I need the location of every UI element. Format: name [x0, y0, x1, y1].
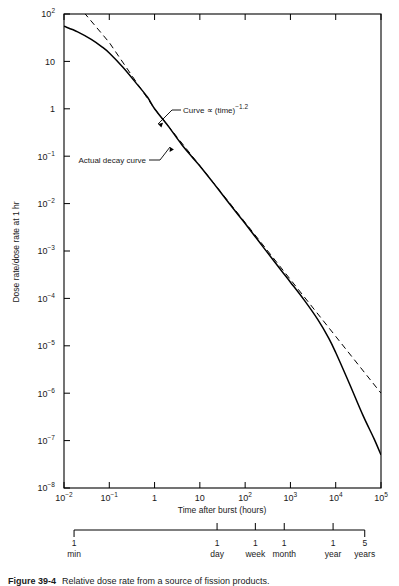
secondary-tick-number: 1: [331, 538, 336, 548]
x-axis-title: Time after burst (hours): [178, 505, 267, 515]
secondary-tick-unit: month: [272, 549, 296, 559]
y-tick-label: 10: [45, 57, 55, 67]
figure-radioactive-decay: 10210110−110−210−310−410−510−610−710−8 1…: [0, 0, 399, 586]
x-tick-label: 10: [195, 493, 205, 503]
secondary-tick-unit: year: [325, 549, 342, 559]
annotation-actual-decay: Actual decay curve: [78, 156, 146, 165]
y-tick-label: 1: [50, 104, 55, 114]
y-axis-title: Dose rate/dose rate at 1 hr: [11, 201, 21, 302]
secondary-tick-unit: week: [244, 549, 266, 559]
x-tick-label: 1: [152, 493, 157, 503]
caption-line: Figure 39-4Relative dose rate from a sou…: [8, 576, 270, 586]
caption-text: Relative dose rate from a source of fiss…: [62, 576, 270, 586]
secondary-tick-unit: min: [67, 549, 81, 559]
figure-caption: Figure 39-4Relative dose rate from a sou…: [8, 576, 270, 586]
secondary-tick-number: 1: [215, 538, 220, 548]
secondary-tick-number: 5: [362, 538, 367, 548]
caption-label: Figure 39-4: [8, 576, 56, 586]
secondary-tick-unit: years: [354, 549, 375, 559]
secondary-tick-unit: day: [210, 549, 224, 559]
secondary-tick-number: 1: [72, 538, 77, 548]
secondary-tick-number: 1: [253, 538, 258, 548]
secondary-tick-number: 1: [282, 538, 287, 548]
